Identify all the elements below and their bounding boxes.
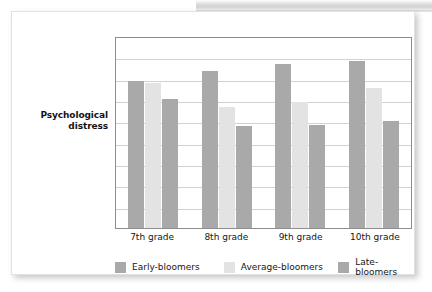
- legend-item-2: Late-bloomers: [338, 257, 415, 277]
- legend-swatch-1: [224, 262, 235, 273]
- bar: [162, 99, 178, 228]
- bar: [366, 88, 382, 228]
- bar-group: [116, 38, 190, 228]
- legend-label-0: Early-bloomers: [132, 262, 200, 272]
- y-axis-label-line2: distress: [26, 121, 108, 132]
- legend-item-0: Early-bloomers: [115, 262, 224, 273]
- legend-swatch-0: [115, 262, 126, 273]
- x-axis-categories: 7th grade8th grade9th grade10th grade: [115, 232, 412, 242]
- bar: [202, 71, 218, 228]
- category-label-2: 9th grade: [264, 232, 338, 242]
- legend-label-2: Late-bloomers: [355, 257, 415, 277]
- category-label-0: 7th grade: [115, 232, 189, 242]
- legend-item-1: Average-bloomers: [224, 262, 338, 273]
- legend-swatch-2: [338, 262, 349, 273]
- figure-card: Psychological distress 7th grade8th grad…: [11, 11, 415, 275]
- bar-group: [337, 38, 411, 228]
- category-label-3: 10th grade: [338, 232, 412, 242]
- bar: [219, 107, 235, 228]
- bar: [309, 125, 325, 228]
- chart-legend: Early-bloomersAverage-bloomersLate-bloom…: [115, 257, 415, 277]
- bar: [128, 81, 144, 228]
- bar: [275, 64, 291, 228]
- plot-area: [115, 37, 412, 229]
- bar: [383, 121, 399, 228]
- legend-label-1: Average-bloomers: [241, 262, 323, 272]
- bar: [349, 61, 365, 228]
- bar: [145, 83, 161, 228]
- bar-group: [264, 38, 338, 228]
- bar-groups: [116, 38, 411, 228]
- bar: [236, 126, 252, 228]
- y-axis-label-line1: Psychological: [26, 110, 108, 121]
- category-label-1: 8th grade: [189, 232, 263, 242]
- bar-group: [190, 38, 264, 228]
- y-axis-label: Psychological distress: [26, 110, 108, 132]
- bar: [292, 102, 308, 228]
